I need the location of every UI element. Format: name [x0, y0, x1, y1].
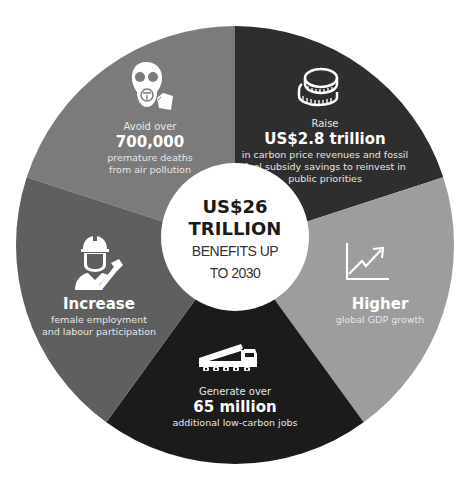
- revenue-value: US$2.8 trillion: [236, 130, 414, 149]
- female-worker-icon: [73, 235, 125, 291]
- center-line4: TO 2030: [161, 262, 309, 284]
- female-value: Increase: [34, 295, 164, 314]
- pollution-value: 700,000: [82, 133, 218, 152]
- gdp-value: Higher: [320, 295, 440, 314]
- gas-mask-icon: [129, 60, 175, 112]
- jobs-pre: Generate over: [160, 385, 310, 398]
- female-desc-1: female employment: [34, 314, 164, 326]
- revenue-desc-1: in carbon price revenues and fossil: [236, 149, 414, 161]
- segment-jobs: Generate over 65 million additional low-…: [160, 385, 310, 429]
- segment-female: Increase female employment and labour pa…: [34, 295, 164, 338]
- revenue-pre: Raise: [236, 117, 414, 130]
- crane-truck-icon: [197, 341, 261, 371]
- growth-chart-icon: [345, 241, 391, 281]
- female-desc-2: and labour participation: [34, 326, 164, 338]
- gdp-desc-1: global GDP growth: [320, 314, 440, 326]
- center-line3: BENEFITS UP: [161, 240, 309, 262]
- jobs-value: 65 million: [160, 398, 310, 417]
- pollution-desc-1: premature deaths: [82, 152, 218, 164]
- jobs-desc-1: additional low-carbon jobs: [160, 417, 310, 429]
- center-amount: US$26: [161, 196, 309, 218]
- center-unit: TRILLION: [161, 218, 309, 240]
- center-summary: US$26 TRILLION BENEFITS UP TO 2030: [161, 163, 309, 311]
- coins-icon: [296, 66, 344, 108]
- pollution-pre: Avoid over: [82, 120, 218, 133]
- segment-pollution: Avoid over 700,000 premature deaths from…: [82, 120, 218, 176]
- segment-gdp: Higher global GDP growth: [320, 295, 440, 326]
